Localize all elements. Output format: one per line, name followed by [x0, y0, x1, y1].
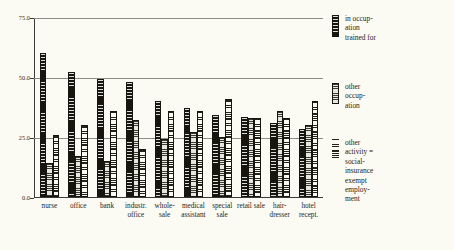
- x-axis-label-hair-dresser: hair- dresser: [265, 202, 294, 219]
- bar-hotel-recept--series-2: [312, 101, 319, 197]
- y-tick-label-75.0: 75.0: [19, 15, 30, 21]
- x-axis-label-special-sale: special sale: [208, 202, 237, 219]
- legend-entry-in-occupation-trained-for: in occup- ation trained for: [332, 14, 415, 42]
- x-axis-label-hotel-recept-: hotel recept.: [294, 202, 323, 219]
- x-axis-label-office: office: [64, 202, 93, 219]
- bar-office-series-2: [81, 125, 88, 197]
- bar-group-retail-sale: [237, 18, 266, 197]
- bar-bank-series-2: [110, 111, 117, 197]
- chart-figure: 0.025.050.075.0 nurseofficebankindustr. …: [0, 0, 454, 250]
- bar-medical-assistant-series-2: [197, 111, 204, 197]
- bar-group-nurse: [35, 18, 64, 197]
- legend-entry-other-occupation: other occup- ation: [332, 82, 415, 110]
- y-tick-label-25.0: 25.0: [19, 135, 30, 141]
- y-tick-mark-75.0: [30, 18, 34, 19]
- bar-group-hotel-recept-: [294, 18, 323, 197]
- x-axis-label-whole-sale: whole- sale: [150, 202, 179, 219]
- bar-industr-office-series-2: [139, 149, 146, 197]
- x-axis-label-industr-office: industr. office: [121, 202, 150, 219]
- x-axis-line: [34, 197, 323, 198]
- bar-group-medical-assistant: [179, 18, 208, 197]
- legend-label-series-1: other occup- ation: [345, 82, 415, 110]
- bar-group-bank: [93, 18, 122, 197]
- x-axis-label-nurse: nurse: [35, 202, 64, 219]
- bar-whole-sale-series-2: [168, 111, 175, 197]
- bar-retail-sale-series-2: [254, 118, 261, 197]
- legend-swatch-icon-series-2: [332, 139, 339, 160]
- bar-special-sale-series-2: [225, 99, 232, 197]
- bar-group-hair-dresser: [265, 18, 294, 197]
- y-tick-label-50.0: 50.0: [19, 75, 30, 81]
- legend-entry-other-activity: other activity = social- insurance exemp…: [332, 138, 415, 204]
- legend-swatch-icon-series-1: [332, 83, 339, 104]
- bar-nurse-series-2: [53, 135, 60, 197]
- bar-group-special-sale: [208, 18, 237, 197]
- bar-group-industr-office: [121, 18, 150, 197]
- x-axis-labels: nurseofficebankindustr. officewhole- sal…: [35, 202, 323, 219]
- x-axis-label-bank: bank: [93, 202, 122, 219]
- y-tick-label-0.0: 0.0: [22, 195, 30, 201]
- bar-group-whole-sale: [150, 18, 179, 197]
- x-axis-label-medical-assistant: medical assistant: [179, 202, 208, 219]
- bar-group-office: [64, 18, 93, 197]
- bar-hair-dresser-series-2: [283, 118, 290, 197]
- y-tick-mark-25.0: [30, 138, 34, 139]
- legend-label-series-0: in occup- ation trained for: [345, 14, 415, 42]
- bar-groups: [35, 18, 323, 197]
- plot-area: 0.025.050.075.0: [34, 18, 323, 198]
- legend-swatch-icon-series-0: [332, 15, 339, 37]
- y-tick-mark-50.0: [30, 78, 34, 79]
- y-tick-mark-0.0: [30, 198, 34, 199]
- x-axis-label-retail-sale: retail sale: [237, 202, 266, 219]
- legend-label-series-2: other activity = social- insurance exemp…: [345, 138, 415, 204]
